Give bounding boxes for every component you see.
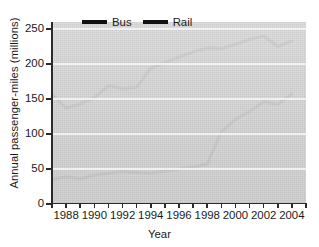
gridline	[52, 98, 306, 100]
x-axis-tick	[249, 203, 251, 208]
x-axis-tick	[263, 203, 265, 208]
x-axis-tick-label: 2002	[251, 209, 276, 221]
y-axis-line	[51, 22, 53, 204]
y-axis-tick-label: 100	[18, 127, 44, 139]
y-axis-tick	[46, 98, 52, 100]
x-axis-title: Year	[0, 228, 319, 240]
y-axis-tick-label: 0	[18, 197, 44, 209]
gridline	[52, 28, 306, 30]
legend-label: Rail	[173, 16, 193, 28]
chart-legend: BusRail	[82, 16, 192, 28]
x-axis-tick	[291, 203, 293, 208]
x-axis-tick-label: 2004	[279, 209, 304, 221]
y-axis-tick-label: 50	[18, 162, 44, 174]
legend-line-swatch	[82, 20, 107, 23]
x-axis-tick	[122, 203, 124, 208]
gridline	[52, 168, 306, 170]
x-axis-tick	[192, 203, 194, 208]
x-axis-tick	[164, 203, 166, 208]
x-axis-tick	[178, 203, 180, 208]
x-axis-tick	[136, 203, 138, 208]
gridline	[52, 133, 306, 135]
x-axis-tick	[51, 203, 53, 208]
legend-label: Bus	[112, 16, 132, 28]
gridline	[52, 63, 306, 65]
x-axis-tick	[221, 203, 223, 208]
plot-background-texture	[52, 22, 306, 204]
y-axis-tick-label: 200	[18, 57, 44, 69]
legend-entry-bus: Bus	[82, 16, 132, 28]
x-axis-tick	[150, 203, 152, 208]
x-axis-tick-label: 2000	[223, 209, 248, 221]
x-axis-tick	[65, 203, 67, 208]
x-axis-tick	[277, 203, 279, 208]
x-axis-tick-label: 1994	[138, 209, 163, 221]
x-axis-tick	[108, 203, 110, 208]
x-axis-tick	[94, 203, 96, 208]
x-axis-tick	[79, 203, 81, 208]
y-axis-tick-label: 150	[18, 92, 44, 104]
x-axis-tick	[235, 203, 237, 208]
x-axis-tick-label: 1988	[53, 209, 78, 221]
x-axis-tick	[206, 203, 208, 208]
x-axis-tick-label: 1990	[82, 209, 107, 221]
y-axis-tick	[46, 133, 52, 135]
legend-entry-rail: Rail	[143, 16, 193, 28]
y-axis-tick	[46, 28, 52, 30]
x-axis-tick-label: 1992	[110, 209, 135, 221]
x-axis-tick-label: 1996	[166, 209, 191, 221]
y-axis-tick	[46, 63, 52, 65]
chart-figure: Annual passenger-miles (millions) 050100…	[0, 0, 319, 247]
x-axis-tick-label: 1998	[195, 209, 220, 221]
plot-area	[52, 22, 306, 204]
y-axis-tick	[46, 168, 52, 170]
legend-line-swatch	[143, 20, 168, 23]
x-axis-tick	[305, 203, 307, 208]
y-axis-tick-label: 250	[18, 22, 44, 34]
